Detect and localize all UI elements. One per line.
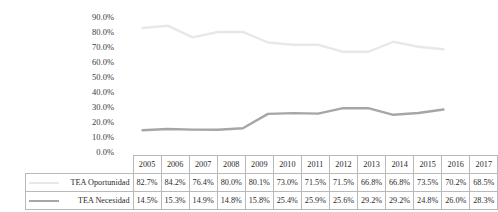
column-header-year: 2011: [301, 156, 329, 174]
column-header-year: 2013: [358, 156, 386, 174]
table-cell: 71.5%: [301, 174, 329, 192]
table-cell: 29.2%: [358, 192, 386, 210]
table-header-row: 2005200620072008200920102011201220132014…: [26, 156, 498, 174]
table-row-necesidad: TEA Necesidad 14.5%15.3%14.9%14.8%15.8%2…: [26, 192, 498, 210]
legend-swatch-necesidad-icon: [29, 200, 59, 202]
table-cell: 15.3%: [161, 192, 189, 210]
table-corner-cell: [26, 156, 134, 174]
column-header-year: 2006: [161, 156, 189, 174]
column-header-year: 2008: [217, 156, 245, 174]
data-table: 2005200620072008200920102011201220132014…: [25, 155, 498, 210]
table-cell: 70.2%: [442, 174, 470, 192]
plot-area: 0.0%10.0%20.0%30.0%40.0%50.0%60.0%70.0%8…: [0, 0, 466, 156]
table-cell: 25.6%: [329, 192, 357, 210]
table-cell: 68.5%: [470, 174, 498, 192]
column-header-year: 2007: [189, 156, 217, 174]
series-line-tea-necesidad: [143, 108, 444, 130]
table-cell: 73.0%: [273, 174, 301, 192]
column-header-year: 2017: [470, 156, 498, 174]
column-header-year: 2012: [329, 156, 357, 174]
table-cell: 14.9%: [189, 192, 217, 210]
table-cell: 80.1%: [245, 174, 273, 192]
table-cell: 24.8%: [414, 192, 442, 210]
table-cell: 28.3%: [470, 192, 498, 210]
table-cell: 25.9%: [301, 192, 329, 210]
table-cell: 26.0%: [442, 192, 470, 210]
legend-item-oportunidad: TEA Oportunidad: [26, 174, 134, 192]
column-header-year: 2015: [414, 156, 442, 174]
table-cell: 66.8%: [358, 174, 386, 192]
column-header-year: 2010: [273, 156, 301, 174]
table-cell: 14.8%: [217, 192, 245, 210]
table-cell: 71.5%: [329, 174, 357, 192]
series-line-tea-oportunidad: [143, 26, 444, 52]
legend-swatch-oportunidad-icon: [29, 182, 59, 184]
table-cell: 76.4%: [189, 174, 217, 192]
table-cell: 82.7%: [133, 174, 161, 192]
column-header-year: 2016: [442, 156, 470, 174]
table-cell: 80.0%: [217, 174, 245, 192]
table-cell: 66.8%: [386, 174, 414, 192]
series-lines: [0, 0, 466, 156]
column-header-year: 2005: [133, 156, 161, 174]
table-cell: 15.8%: [245, 192, 273, 210]
table-cell: 14.5%: [133, 192, 161, 210]
column-header-year: 2014: [386, 156, 414, 174]
table-row-oportunidad: TEA Oportunidad 82.7%84.2%76.4%80.0%80.1…: [26, 174, 498, 192]
legend-label-oportunidad: TEA Oportunidad: [71, 178, 130, 187]
table-cell: 73.5%: [414, 174, 442, 192]
table-cell: 25.4%: [273, 192, 301, 210]
table-cell: 29.2%: [386, 192, 414, 210]
column-header-year: 2009: [245, 156, 273, 174]
table-cell: 84.2%: [161, 174, 189, 192]
legend-label-necesidad: TEA Necesidad: [78, 196, 130, 205]
legend-item-necesidad: TEA Necesidad: [26, 192, 134, 210]
